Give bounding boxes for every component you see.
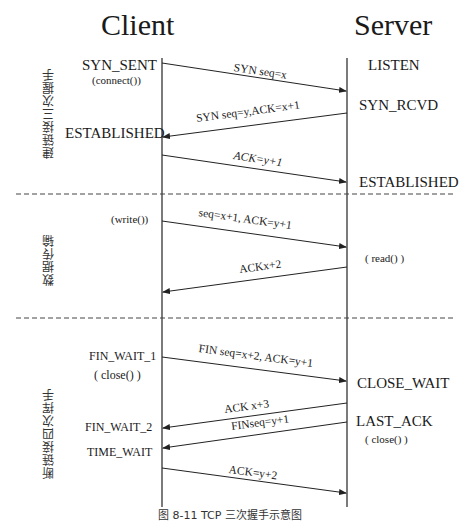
client-state-fin-wait-1: FIN_WAIT_1 (89, 350, 156, 362)
client-state-syn-sent: SYN_SENT (82, 58, 157, 73)
client-state-fin-wait-2: FIN_WAIT_2 (85, 421, 152, 433)
phase-label-handshake: 建链接三次握手 (40, 68, 57, 159)
phase-label-teardown: 断链接四次挥手 (40, 388, 57, 479)
client-state-time-wait: TIME_WAIT (87, 446, 152, 458)
server-state-close-wait: CLOSE_WAIT (357, 376, 450, 391)
client-call-connect: (connect()) (92, 75, 141, 86)
server-state-listen: LISTEN (368, 58, 420, 73)
figure-caption: 图 8-11 TCP 三次握手示意图 (158, 510, 302, 521)
server-call-close: ( close() ) (365, 434, 408, 445)
client-state-established: ESTABLISHED (65, 126, 165, 141)
server-header: Server (354, 10, 432, 40)
server-state-syn-rcvd: SYN_RCVD (359, 98, 438, 113)
sequence-diagram-lines (0, 0, 466, 529)
server-state-last-ack: LAST_ACK (356, 414, 433, 429)
client-call-close: ( close() ) (94, 369, 141, 381)
server-state-established: ESTABLISHED (359, 175, 459, 190)
phase-label-data-transfer: 数据传输 (40, 234, 57, 286)
server-call-read: ( read() ) (365, 253, 404, 264)
client-call-write: (write()) (111, 214, 148, 225)
client-header: Client (101, 10, 174, 40)
